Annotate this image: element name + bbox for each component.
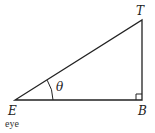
vertex-b-label: B [137,104,147,118]
right-angle-marker [136,94,142,100]
triangle-diagram: θ T B E eye [0,0,155,133]
triangle-ebt [15,20,142,100]
eye-caption: eye [5,118,19,129]
angle-theta-label: θ [56,80,64,94]
vertex-t-label: T [136,4,145,18]
angle-theta-arc [47,80,53,100]
vertex-e-label: E [7,104,17,118]
